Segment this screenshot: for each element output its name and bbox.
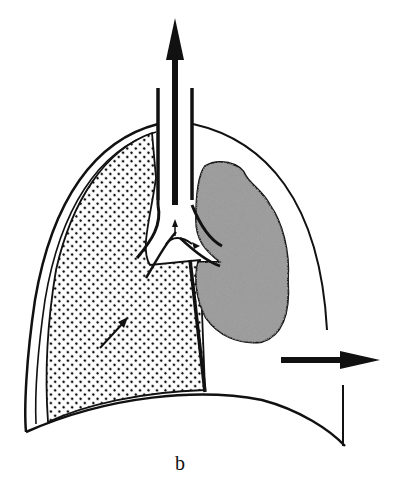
mass-texture bbox=[196, 162, 288, 343]
upward-arrow-head bbox=[166, 18, 184, 60]
rightward-arrow-head bbox=[340, 351, 380, 369]
lung-diagram bbox=[0, 0, 396, 493]
figure-caption: b bbox=[0, 452, 360, 475]
bronchus-arrow-head bbox=[192, 242, 200, 249]
carina-arrow-head bbox=[172, 219, 178, 227]
